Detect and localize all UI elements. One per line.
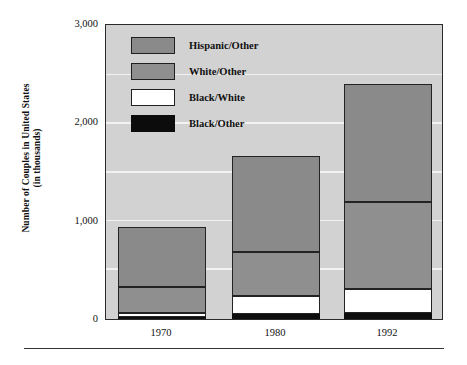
chart-legend: Hispanic/Other White/Other Black/White B…: [131, 35, 258, 139]
legend-item-hispanic-other: Hispanic/Other: [131, 35, 258, 55]
legend-label-black-other: Black/Other: [189, 118, 244, 129]
y-tick-2000: 2,000: [46, 116, 98, 127]
bar-1980-segment-black-other: [232, 314, 320, 319]
bar-1980: [232, 156, 320, 319]
legend-item-black-other: Black/Other: [131, 113, 258, 133]
bar-1970-segment-hispanic-other: [118, 227, 206, 286]
bar-1980-segment-hispanic-other: [232, 156, 320, 252]
bar-1992: [344, 84, 432, 319]
x-tick-1992: 1992: [327, 327, 447, 338]
x-tick-1980: 1980: [215, 327, 335, 338]
black-white-swatch: [131, 89, 175, 106]
bar-1992-segment-hispanic-other: [344, 84, 432, 201]
hispanic-other-swatch: [131, 37, 175, 54]
bar-1970-segment-white-other: [118, 287, 206, 313]
legend-item-white-other: White/Other: [131, 61, 258, 81]
bar-1980-segment-white-other: [232, 252, 320, 296]
y-tick-1000: 1,000: [46, 215, 98, 226]
legend-item-black-white: Black/White: [131, 87, 258, 107]
bar-1992-segment-white-other: [344, 202, 432, 290]
stacked-bar-chart: Number of Couples in United States (in t…: [0, 0, 467, 365]
legend-label-hispanic-other: Hispanic/Other: [189, 40, 258, 51]
black-other-swatch: [131, 115, 175, 132]
y-tick-0: 0: [46, 313, 98, 324]
bar-1992-segment-black-other: [344, 313, 432, 319]
bar-1970-segment-black-other: [118, 317, 206, 320]
legend-label-white-other: White/Other: [189, 66, 246, 77]
white-other-swatch: [131, 63, 175, 80]
y-tick-3000: 3,000: [46, 18, 98, 29]
x-tick-1970: 1970: [101, 327, 221, 338]
legend-label-black-white: Black/White: [189, 92, 245, 103]
bar-1980-segment-black-white: [232, 296, 320, 314]
plot-area: Hispanic/Other White/Other Black/White B…: [105, 24, 443, 320]
bar-1992-segment-black-white: [344, 289, 432, 313]
footer-rule: [24, 348, 444, 349]
bar-1970: [118, 227, 206, 319]
